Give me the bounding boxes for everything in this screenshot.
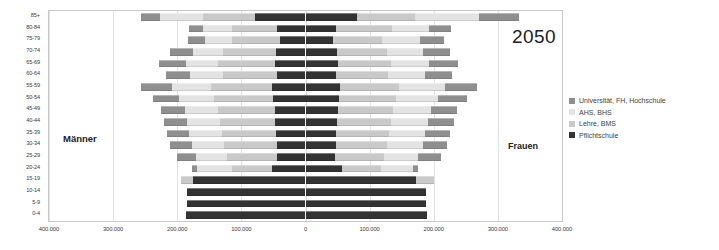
y-axis-tick-label: 65-69 <box>26 60 40 66</box>
bar-segment <box>423 48 450 55</box>
y-axis-tick-label: 15-19 <box>26 176 40 182</box>
bar-segment <box>280 36 306 43</box>
bar-row <box>49 188 562 195</box>
bar-row <box>49 118 562 125</box>
bar-segment <box>186 211 306 218</box>
bar-segment <box>306 130 337 137</box>
bar-segment <box>193 176 306 183</box>
bar-segment <box>205 36 233 43</box>
legend-item[interactable]: Universität, FH, Hochschule <box>569 96 717 105</box>
bar-segment <box>203 25 232 32</box>
bar-segment <box>232 36 279 43</box>
bar-segment <box>276 48 305 55</box>
bar-segment <box>340 83 399 90</box>
bar-segment <box>179 95 214 102</box>
y-axis-tick-label: 75-79 <box>26 36 40 42</box>
bar-segment <box>214 95 274 102</box>
bar-segment <box>187 200 306 207</box>
bar-segment <box>188 36 205 43</box>
bar-segment <box>273 95 305 102</box>
y-axis-tick-label: 55-59 <box>26 83 40 89</box>
bar-segment <box>381 165 413 172</box>
legend-item[interactable]: AHS, BHS <box>569 108 717 117</box>
y-axis-tick-label: 80-84 <box>26 25 40 31</box>
bar-segment <box>306 165 343 172</box>
bar-segment <box>425 130 450 137</box>
legend-item-label: Lehre, BMS <box>579 120 616 127</box>
bar-segment <box>196 153 227 160</box>
legend-swatch-icon <box>569 98 575 104</box>
bar-segment <box>338 60 391 67</box>
bar-row <box>49 153 562 160</box>
bar-segment <box>232 25 277 32</box>
bar-segment <box>306 83 341 90</box>
bar-segment <box>425 71 453 78</box>
legend-item-label: AHS, BHS <box>579 109 612 116</box>
y-axis-tick-label: 35-39 <box>26 130 40 136</box>
bar-segment <box>277 153 305 160</box>
legend-item[interactable]: Lehre, BMS <box>569 119 717 128</box>
x-axis-tick-label: 300.000 <box>488 226 508 232</box>
year-annotation: 2050 <box>512 26 556 48</box>
bar-segment <box>177 153 197 160</box>
bar-segment <box>306 60 339 67</box>
bar-segment <box>306 95 339 102</box>
legend-item[interactable]: Pflichtschule <box>569 131 717 140</box>
female-side-label: Frauen <box>508 141 538 151</box>
bar-segment <box>306 118 337 125</box>
bar-segment <box>161 106 185 113</box>
bar-segment <box>387 48 424 55</box>
bar-segment <box>423 141 447 148</box>
bar-row <box>49 200 562 207</box>
bar-row <box>49 83 562 90</box>
bar-segment <box>391 118 428 125</box>
bar-segment <box>227 153 277 160</box>
bar-segment <box>164 118 187 125</box>
bar-segment <box>389 130 426 137</box>
bar-segment <box>306 188 427 195</box>
bar-segment <box>396 95 438 102</box>
bar-segment <box>232 165 272 172</box>
bar-segment <box>392 25 429 32</box>
bar-segment <box>189 130 222 137</box>
bar-segment <box>438 95 467 102</box>
bar-segment <box>192 165 197 172</box>
bar-segment <box>418 153 441 160</box>
bar-row <box>49 36 562 43</box>
x-axis-tick-label: 400.000 <box>39 226 59 232</box>
bar-segment <box>306 176 417 183</box>
legend-item-label: Pflichtschule <box>579 132 618 139</box>
bar-segment <box>223 48 276 55</box>
bar-segment <box>197 165 232 172</box>
bar-segment <box>393 106 431 113</box>
bar-segment <box>306 36 334 43</box>
bar-row <box>49 48 562 55</box>
bar-row <box>49 71 562 78</box>
bar-segment <box>387 141 423 148</box>
bar-row <box>49 106 562 113</box>
bar-segment <box>342 165 380 172</box>
x-axis-tick-label: 0 <box>304 226 307 232</box>
bar-segment <box>429 25 451 32</box>
bar-segment <box>211 83 273 90</box>
bar-segment <box>167 130 189 137</box>
y-axis-tick-label: 40-44 <box>26 118 40 124</box>
bar-segment <box>141 83 172 90</box>
bar-segment <box>420 36 444 43</box>
bar-segment <box>275 118 305 125</box>
bar-segment <box>172 83 210 90</box>
legend-swatch-icon <box>569 132 575 138</box>
y-axis-tick-label: 20-24 <box>26 165 40 171</box>
bar-segment <box>192 141 224 148</box>
y-axis-tick-label: 10-14 <box>26 188 40 194</box>
bar-segment <box>222 130 276 137</box>
x-axis-tick-label: 300.000 <box>103 226 123 232</box>
bar-segment <box>337 48 387 55</box>
bar-row <box>49 141 562 148</box>
bar-segment <box>181 176 193 183</box>
bar-segment <box>170 141 192 148</box>
bar-segment <box>160 13 203 20</box>
bar-segment <box>275 106 306 113</box>
bar-segment <box>277 25 306 32</box>
bar-segment <box>479 13 519 20</box>
